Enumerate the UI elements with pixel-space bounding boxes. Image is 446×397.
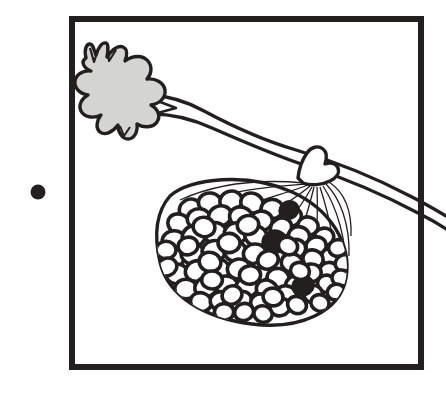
fruit-berry <box>238 265 261 286</box>
fruit-berry <box>218 233 241 253</box>
fruit-berry <box>201 271 222 289</box>
fruit-berry <box>262 287 284 307</box>
bullet-point-marker <box>31 185 46 200</box>
botanical-illustration <box>0 0 446 397</box>
illustration-canvas <box>0 0 446 397</box>
